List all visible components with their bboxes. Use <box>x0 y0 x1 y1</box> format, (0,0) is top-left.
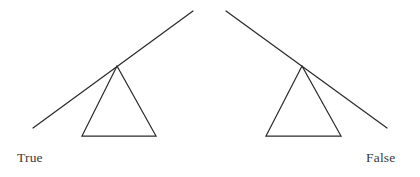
right-fulcrum-triangle <box>266 66 341 136</box>
right-panel-caption: False <box>366 151 396 165</box>
left-fulcrum-triangle <box>82 66 156 136</box>
left-panel-group <box>33 11 193 136</box>
lever-diagram-figure: True False <box>0 0 420 177</box>
diagram-canvas <box>0 0 420 177</box>
right-panel-group <box>226 11 387 136</box>
left-panel-caption: True <box>17 151 43 165</box>
right-lever-line <box>226 11 387 128</box>
left-lever-line <box>33 11 193 128</box>
